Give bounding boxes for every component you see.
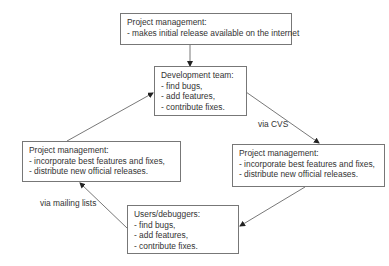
node-line: - distribute new official releases. — [239, 169, 378, 180]
node-line: - find bugs, — [161, 81, 240, 92]
node-line: - add features, — [161, 91, 240, 102]
arrow-pm-right-to-users — [240, 187, 305, 226]
arrow-dev-to-pm-right — [246, 92, 319, 143]
node-title: Project management: — [29, 145, 174, 156]
node-title: Project management: — [239, 148, 378, 159]
node-pm-left: Project management: - incorporate best f… — [22, 141, 181, 182]
node-line: - makes initial release available on the… — [127, 28, 285, 39]
node-dev-team: Development team: - find bugs, - add fea… — [154, 66, 247, 116]
node-title: Project management: — [127, 17, 285, 28]
node-users: Users/debuggers: - find bugs, - add feat… — [127, 205, 239, 254]
edge-label-via-cvs: via CVS — [258, 119, 288, 129]
node-title: Users/debuggers: — [134, 209, 232, 220]
arrow-pm-left-to-dev — [67, 93, 153, 141]
node-line: - contribute fixes. — [161, 102, 240, 113]
node-line: - incorporate best features and fixes, — [29, 156, 174, 167]
edge-label-via-mailing-lists: via mailing lists — [40, 198, 96, 208]
node-line: - add features, — [134, 230, 232, 241]
node-pm-right: Project management: - incorporate best f… — [232, 144, 385, 187]
node-line: - contribute fixes. — [134, 241, 232, 252]
node-title: Development team: — [161, 70, 240, 81]
node-line: - incorporate best features and fixes, — [239, 159, 378, 170]
node-line: - distribute new official releases. — [29, 166, 174, 177]
node-pm-initial: Project management: - makes initial rele… — [120, 13, 292, 45]
node-line: - find bugs, — [134, 220, 232, 231]
